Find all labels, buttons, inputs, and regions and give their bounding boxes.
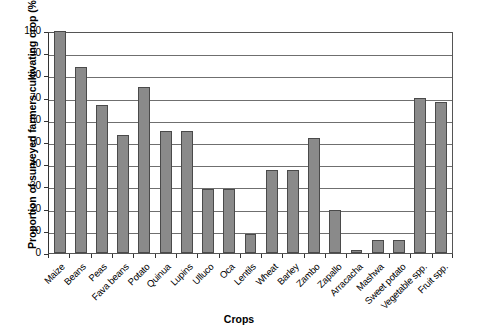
bar[interactable] — [75, 67, 87, 253]
x-axis-label-slot: Oca — [219, 259, 240, 319]
bar[interactable] — [181, 131, 193, 253]
bar-slot — [134, 33, 155, 253]
bar-slot — [325, 33, 346, 253]
bar-slot — [388, 33, 409, 253]
x-axis-label-slot: Wheat — [261, 259, 282, 319]
x-axis-tick-mark — [69, 254, 70, 258]
x-axis-tick-mark — [304, 254, 305, 258]
y-axis-tick-label: 100 — [24, 25, 41, 36]
x-axis-tick-mark — [432, 254, 433, 258]
bar-slot — [261, 33, 282, 253]
y-axis-tick-label: 50 — [30, 136, 41, 147]
x-axis-tick-mark — [240, 254, 241, 258]
bar[interactable] — [245, 234, 257, 253]
x-axis-tick-mark — [282, 254, 283, 258]
bar-slot — [197, 33, 218, 253]
x-axis-label-slot: Barley — [282, 259, 303, 319]
bar[interactable] — [202, 189, 214, 253]
x-axis-label-slot: Maize — [48, 259, 69, 319]
y-axis-tick-label: 10 — [30, 225, 41, 236]
x-axis-tick-mark — [133, 254, 134, 258]
x-axis-label-slot: Quinua — [155, 259, 176, 319]
bar-slot — [303, 33, 324, 253]
bar[interactable] — [54, 31, 66, 253]
bar[interactable] — [393, 240, 405, 253]
bar[interactable] — [266, 170, 278, 253]
y-axis-tick-label: 0 — [35, 247, 41, 258]
bar[interactable] — [223, 189, 235, 253]
x-axis-tick-mark — [91, 254, 92, 258]
bar-slot — [219, 33, 240, 253]
x-axis-label-slot: Beans — [69, 259, 90, 319]
x-axis-label-slot: Fava beans — [112, 259, 133, 319]
bar[interactable] — [414, 98, 426, 253]
x-axis-tick-mark — [112, 254, 113, 258]
x-axis-tick-mark — [368, 254, 369, 258]
bar-slot — [409, 33, 430, 253]
bars-layer — [49, 33, 452, 253]
bar-slot — [91, 33, 112, 253]
bar-slot — [113, 33, 134, 253]
bar[interactable] — [138, 87, 150, 254]
x-axis-category-labels: MaizeBeansPeasFava beansPotatoQuinuaLupi… — [48, 259, 453, 319]
x-axis-label-slot: Lentils — [240, 259, 261, 319]
x-axis-tick-mark — [261, 254, 262, 258]
plot-area — [48, 32, 453, 254]
y-axis-tick-label: 80 — [30, 69, 41, 80]
x-axis-tick-mark — [219, 254, 220, 258]
x-axis-tick-mark — [155, 254, 156, 258]
bar-slot — [176, 33, 197, 253]
y-axis-tick-label: 30 — [30, 180, 41, 191]
bar[interactable] — [372, 240, 384, 253]
x-axis-tick-mark — [452, 254, 453, 258]
y-axis-tick-label: 90 — [30, 47, 41, 58]
x-axis-category-label: Maize — [41, 261, 66, 286]
bar-slot — [282, 33, 303, 253]
bar[interactable] — [351, 250, 363, 253]
bar[interactable] — [287, 170, 299, 253]
bar[interactable] — [308, 138, 320, 253]
y-axis-tick-label: 70 — [30, 92, 41, 103]
bar[interactable] — [329, 210, 341, 253]
x-axis-tick-mark — [410, 254, 411, 258]
bar-slot — [431, 33, 452, 253]
y-axis-tick-label: 20 — [30, 203, 41, 214]
x-axis-tick-mark — [325, 254, 326, 258]
bar-slot — [346, 33, 367, 253]
bar[interactable] — [160, 131, 172, 253]
x-axis-label-slot: Ulluco — [197, 259, 218, 319]
x-axis-tick-mark — [48, 254, 49, 258]
x-axis-tick-mark — [197, 254, 198, 258]
bar-slot — [70, 33, 91, 253]
y-axis-ticks: 0102030405060708090100 — [0, 32, 48, 254]
bar[interactable] — [117, 135, 129, 253]
x-axis-label-slot: Lupins — [176, 259, 197, 319]
y-axis-tick-label: 40 — [30, 158, 41, 169]
x-axis-label-slot: Fruit spp. — [432, 259, 453, 319]
bar[interactable] — [435, 102, 447, 253]
y-axis-tick-label: 60 — [30, 114, 41, 125]
x-axis-tick-mark — [346, 254, 347, 258]
bar-slot — [367, 33, 388, 253]
bar[interactable] — [96, 105, 108, 253]
x-axis-tick-mark — [176, 254, 177, 258]
bar-slot — [240, 33, 261, 253]
bar-chart: Proportion of surveyed farmers cultivati… — [0, 0, 478, 333]
bar-slot — [155, 33, 176, 253]
x-axis-tick-mark — [389, 254, 390, 258]
bar-slot — [49, 33, 70, 253]
x-axis-title: Crops — [0, 313, 478, 325]
